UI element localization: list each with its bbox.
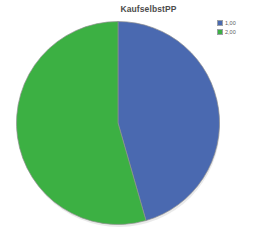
legend-item-label: 1,00 [225, 19, 236, 27]
legend-swatch-icon [217, 20, 223, 26]
legend-item[interactable]: 1,00 [217, 19, 253, 27]
legend-swatch-icon [217, 29, 223, 35]
chart-legend: 1,00 2,00 [217, 19, 253, 37]
pie-chart-figure: KaufselbstPP 1,00 2,00 [0, 0, 255, 242]
legend-item[interactable]: 2,00 [217, 28, 253, 36]
pie-plot-area [14, 19, 222, 227]
pie-slices-group [17, 22, 220, 225]
chart-title: KaufselbstPP [0, 4, 255, 14]
legend-item-label: 2,00 [225, 28, 236, 36]
pie-svg [14, 19, 222, 227]
